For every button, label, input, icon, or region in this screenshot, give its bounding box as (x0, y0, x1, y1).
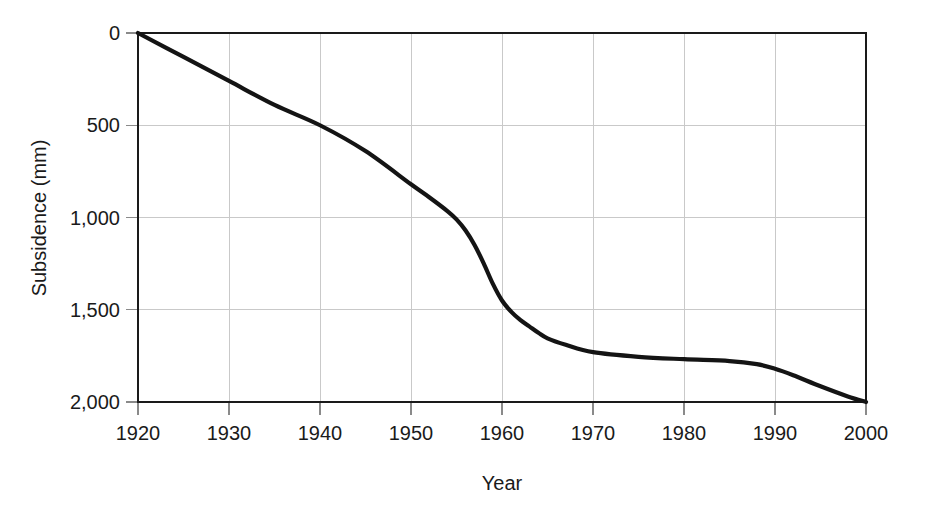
x-tick-label: 1950 (389, 422, 434, 444)
x-tick-label: 1920 (116, 422, 161, 444)
x-tick-label: 1970 (571, 422, 616, 444)
x-tick-label: 1980 (662, 422, 707, 444)
x-tick-label: 1940 (298, 422, 343, 444)
y-tick-label: 2,000 (70, 391, 120, 413)
x-tick-label: 2000 (844, 422, 889, 444)
x-axis-tick-labels: 192019301940195019601970198019902000 (116, 422, 889, 444)
y-axis-title: Subsidence (mm) (28, 140, 50, 297)
x-axis-title: Year (482, 472, 523, 494)
y-tick-label: 500 (87, 114, 120, 136)
x-tick-label: 1930 (207, 422, 252, 444)
chart-canvas: 192019301940195019601970198019902000 050… (0, 0, 927, 515)
x-tick-label: 1960 (480, 422, 525, 444)
x-tick-label: 1990 (753, 422, 798, 444)
y-tick-label: 1,500 (70, 299, 120, 321)
y-tick-label: 0 (109, 22, 120, 44)
y-tick-label: 1,000 (70, 207, 120, 229)
subsidence-chart: 192019301940195019601970198019902000 050… (0, 0, 927, 515)
